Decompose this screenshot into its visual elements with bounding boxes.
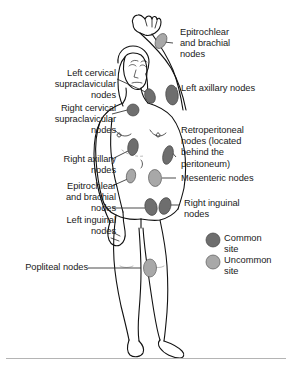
popliteal-node bbox=[144, 259, 157, 277]
left-axillary-node bbox=[165, 84, 179, 105]
chest-contour bbox=[115, 130, 166, 137]
legend-common-swatch bbox=[206, 233, 220, 247]
leg-right-inner bbox=[143, 228, 160, 340]
facial-features bbox=[129, 60, 147, 83]
finger-lines bbox=[145, 19, 157, 28]
label-right-inguinal: Right inguinal nodes bbox=[184, 198, 290, 220]
right-cervical-node bbox=[127, 104, 139, 116]
navel bbox=[141, 160, 143, 168]
bottom-divider bbox=[6, 358, 286, 359]
right-axillary-node bbox=[127, 138, 140, 156]
legend-swatches bbox=[206, 233, 220, 269]
right-brachial-node bbox=[125, 168, 136, 183]
knee-left-line bbox=[120, 266, 133, 268]
leg-left-inner bbox=[138, 228, 141, 341]
left-inguinal-node bbox=[157, 196, 173, 216]
mesenteric-node bbox=[148, 169, 162, 187]
lymph-node-diagram: Epitrochlear and brachial nodes Left cer… bbox=[0, 0, 292, 373]
label-right-axillary: Right axillary nodes bbox=[18, 154, 116, 176]
label-retroperitoneal: Retroperitoneal nodes (located behind th… bbox=[181, 125, 291, 170]
leg-right-outer bbox=[160, 220, 168, 341]
label-epitrochlear-brachial-upper: Epitrochlear and brachial nodes bbox=[180, 27, 288, 61]
legend-uncommon-swatch bbox=[206, 255, 220, 269]
foot-left bbox=[128, 340, 144, 357]
label-left-inguinal: Left inguinal nodes bbox=[18, 215, 116, 237]
label-epitrochlear-brachial-lower: Epitrochlear and brachial nodes bbox=[10, 181, 116, 215]
legend-common-label: Common site bbox=[224, 233, 290, 255]
right-inguinal-node bbox=[143, 197, 159, 216]
label-left-axillary: Left axillary nodes bbox=[181, 83, 291, 94]
neck-left bbox=[123, 88, 126, 103]
left-cervical-node bbox=[143, 87, 158, 105]
foot-right bbox=[159, 340, 184, 358]
label-popliteal: Popliteal nodes bbox=[6, 262, 88, 273]
label-right-cervical-supraclavicular: Right cervical supraclavicular nodes bbox=[8, 103, 116, 137]
label-mesenteric: Mesenteric nodes bbox=[181, 173, 291, 184]
legend-uncommon-label: Uncommon site bbox=[224, 255, 292, 277]
retroperitoneal-node bbox=[161, 145, 175, 166]
label-left-cervical-supraclavicular: Left cervical supraclavicular nodes bbox=[10, 68, 116, 102]
